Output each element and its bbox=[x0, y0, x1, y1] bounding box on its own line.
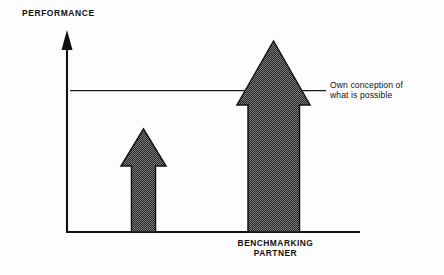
performance-axis-title: PERFORMANCE bbox=[22, 8, 95, 18]
benchmarking-partner-arrow-shape bbox=[237, 41, 310, 232]
reference-line-label-line1: Own conception of bbox=[330, 80, 403, 90]
own-performance-arrow-shape bbox=[121, 129, 166, 232]
benchmarking-diagram bbox=[0, 0, 444, 275]
category-label-line1: BENCHMARKING bbox=[238, 238, 314, 248]
category-label-line2: PARTNER bbox=[213, 249, 338, 259]
reference-line-label-line2: what is possible bbox=[330, 90, 403, 100]
benchmarking-partner-arrow bbox=[237, 41, 310, 232]
reference-line-label: Own conception ofwhat is possible bbox=[330, 80, 403, 100]
performance-axis bbox=[62, 30, 73, 232]
own-performance-arrow bbox=[121, 129, 166, 232]
performance-axis-arrowhead bbox=[62, 30, 73, 50]
category-label: BENCHMARKINGPARTNER bbox=[213, 239, 338, 259]
diagram-canvas: PERFORMANCE Own conception ofwhat is pos… bbox=[0, 0, 444, 275]
